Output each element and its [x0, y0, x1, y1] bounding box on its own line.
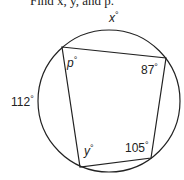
cyclic-quadrilateral-diagram: x° 112° p° 87° 105° y°: [0, 0, 184, 180]
angle-label-87: 87°: [141, 62, 158, 77]
circle: [38, 30, 180, 172]
angle-label-y: y°: [83, 143, 94, 158]
angle-label-p: p°: [66, 55, 78, 70]
arc-label-x: x°: [108, 10, 119, 25]
arc-label-112: 112°: [11, 94, 34, 109]
angle-label-105: 105°: [125, 140, 149, 155]
